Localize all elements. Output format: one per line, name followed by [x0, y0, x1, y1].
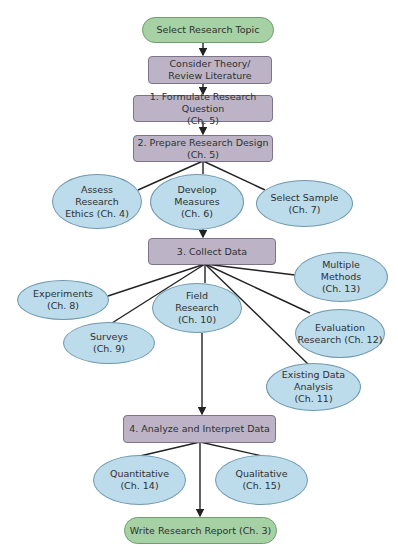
select-topic-node: Select Research Topic [142, 17, 274, 43]
experiments-node: Experiments (Ch. 8) [17, 280, 109, 320]
assess-ethics-node: Assess Research Ethics (Ch. 4) [52, 174, 142, 229]
consider-theory-node: Consider Theory/ Review Literature [148, 56, 272, 84]
qualitative-node: Qualitative (Ch. 15) [215, 455, 308, 505]
evaluation-research-node: Evaluation Research (Ch. 12) [295, 309, 385, 358]
prepare-design-node: 2. Prepare Research Design (Ch. 5) [133, 135, 273, 162]
develop-measures-node: Develop Measures (Ch. 6) [150, 174, 244, 230]
surveys-node: Surveys (Ch. 9) [63, 322, 155, 364]
select-sample-node: Select Sample (Ch. 7) [256, 180, 353, 227]
formulate-question-node: 1. Formulate Research Question (Ch. 5) [133, 95, 273, 122]
collect-data-node: 3. Collect Data [148, 238, 276, 265]
quantitative-node: Quantitative (Ch. 14) [93, 455, 186, 505]
analyze-data-node: 4. Analyze and Interpret Data [123, 415, 276, 443]
multiple-methods-node: Multiple Methods (Ch. 13) [294, 252, 388, 302]
write-report-node: Write Research Report (Ch. 3) [124, 517, 277, 544]
existing-data-node: Existing Data Analysis (Ch. 11) [266, 363, 361, 411]
field-research-node: Field Research (Ch. 10) [152, 283, 242, 333]
